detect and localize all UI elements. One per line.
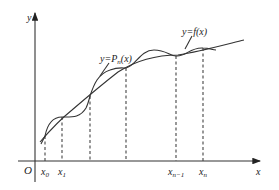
y-axis-label: y xyxy=(26,12,32,23)
node-label-xn-1: xn−1 xyxy=(167,166,184,179)
node-label-x0: x0 xyxy=(40,166,49,179)
node-label-x1: x1 xyxy=(57,166,66,179)
leader-f xyxy=(185,36,192,49)
x-axis-label: x xyxy=(255,166,261,177)
label-f: y=f(x) xyxy=(181,26,208,38)
node-label-xn: xn xyxy=(198,166,207,179)
interpolation-diagram: y x O y=Pn(x) y=f(x) x0 x1 xn−1 xn xyxy=(0,0,279,190)
origin-label: O xyxy=(24,164,32,176)
leader-Pn xyxy=(100,63,109,76)
label-Pn: y=Pn(x) xyxy=(99,53,133,66)
